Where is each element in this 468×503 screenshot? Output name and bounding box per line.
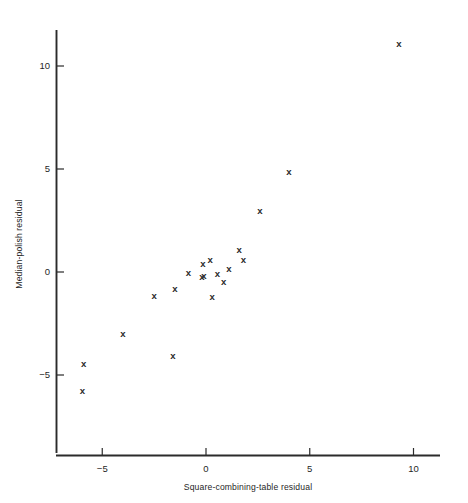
data-point: x	[199, 271, 205, 282]
x-tick-label: 10	[408, 463, 419, 474]
data-point: x	[207, 254, 213, 265]
data-point: x	[226, 263, 232, 274]
x-tick-label: 0	[203, 463, 208, 474]
data-point: x	[186, 267, 192, 278]
x-tick-label: 5	[307, 463, 312, 474]
y-axis-label: Median-polish residual	[14, 199, 24, 288]
data-point: x	[170, 350, 176, 361]
data-point: x	[200, 258, 206, 269]
data-point: x	[81, 358, 87, 369]
data-point: x	[257, 205, 263, 216]
data-point: x	[221, 276, 227, 287]
y-tick-label: 0	[45, 266, 50, 277]
data-point: x	[172, 283, 178, 294]
x-axis-label: Square-combining-table residual	[184, 482, 312, 492]
plot-svg: −50510 −50510 xxxxxxxxxxxxxxxxxxxx Squar…	[0, 0, 468, 503]
plot-background	[0, 0, 468, 503]
data-point: x	[210, 291, 216, 302]
data-point: x	[215, 268, 221, 279]
y-tick-label: −5	[39, 369, 50, 380]
data-point: x	[80, 385, 86, 396]
data-point: x	[151, 290, 157, 301]
data-point: x	[286, 166, 292, 177]
y-tick-label: 10	[39, 60, 50, 71]
y-tick-label: 5	[45, 163, 50, 174]
data-point: x	[120, 328, 126, 339]
x-tick-label: −5	[97, 463, 108, 474]
scatter-plot-figure: −50510 −50510 xxxxxxxxxxxxxxxxxxxx Squar…	[0, 0, 468, 503]
data-point: x	[396, 38, 402, 49]
data-point: x	[241, 254, 247, 265]
